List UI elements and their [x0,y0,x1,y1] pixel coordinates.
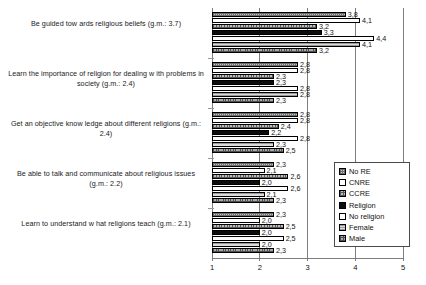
axis-tick-mark [259,258,260,261]
legend-swatch-icon [339,213,346,220]
bar [212,30,322,35]
bar [212,142,274,147]
legend-item[interactable]: Religion [339,200,405,211]
axis-tick-label: 3 [301,263,315,272]
bar [212,124,279,129]
legend-label: Female [349,223,374,232]
bar [212,12,346,17]
legend-swatch-icon [339,235,346,242]
bar-value-label: 2,3 [276,247,286,255]
legend-item[interactable]: Female [339,222,405,233]
bar-value-label: 2,5 [286,223,296,231]
bar [212,162,274,167]
bar [212,24,317,29]
legend-label: CCRE [349,189,370,198]
bar [212,248,274,253]
group-separator [208,108,214,109]
axis-tick-mark [212,258,213,261]
bar [212,242,260,247]
legend-label: CNRE [349,178,370,187]
bar [212,174,288,179]
legend-label: No RE [349,167,371,176]
legend-swatch-icon [339,168,346,175]
bar [212,186,288,191]
legend-swatch-icon [339,190,346,197]
category-label: Learn the importance of religion for dea… [8,69,204,88]
legend-item[interactable]: CCRE [339,188,405,199]
bar [212,218,260,223]
bar-value-label: 2,3 [276,211,286,219]
bar [212,168,265,173]
bar [212,86,298,91]
bar-value-label: 4,4 [376,35,386,43]
bar [212,80,274,85]
bar [212,198,274,203]
legend-swatch-icon [339,202,346,209]
bar [212,236,284,241]
bar [212,180,260,185]
axis-tick-mark [403,258,404,261]
bar [212,230,260,235]
legend-item[interactable]: No religion [339,211,405,222]
category-label: Learn to understand w hat religions teac… [8,219,204,229]
bar [212,148,284,153]
bar-value-label: 2,8 [300,91,310,99]
bar-value-label: 4,1 [362,41,372,49]
bar [212,112,298,117]
group-separator [208,158,214,159]
legend-swatch-icon [339,179,346,186]
axis-tick-mark [307,258,308,261]
axis-tick-label: 4 [348,263,362,272]
legend-swatch-icon [339,224,346,231]
legend-label: Male [349,234,365,243]
bar-value-label: 4,1 [362,17,372,25]
axis-tick-label: 2 [253,263,267,272]
bar [212,224,284,229]
bar-value-label: 2,5 [286,147,296,155]
bar [212,98,274,103]
axis-tick-label: 1 [205,263,219,272]
bar-value-label: 2,6 [290,173,300,181]
bar [212,130,269,135]
bar-value-label: 2,8 [300,135,310,143]
category-label: Be guided tow ards religious beliefs (g.… [8,19,204,29]
group-separator [208,208,214,209]
bar [212,42,360,47]
bar [212,36,374,41]
bar [212,48,317,53]
bar-value-label: 2,3 [276,161,286,169]
axis-tick-label: 5 [396,263,410,272]
bar-value-label: 2,6 [290,185,300,193]
bar-value-label: 2,8 [300,117,310,125]
bar-value-label: 2,4 [281,123,291,131]
bar [212,18,360,23]
legend-item[interactable]: CNRE [339,177,405,188]
legend-item[interactable]: No RE [339,166,405,177]
group-separator [208,58,214,59]
horizontal-bar-chart: Be guided tow ards religious beliefs (g.… [0,0,426,285]
bar-value-label: 2,3 [276,97,286,105]
legend-label: No religion [349,212,384,221]
category-label: Get an objective know ledge about differ… [8,119,204,138]
legend-item[interactable]: Male [339,233,405,244]
chart-legend: No RECNRECCREReligionNo religionFemaleMa… [334,162,410,247]
bar [212,192,265,197]
bar-value-label: 2,8 [300,67,310,75]
bar-value-label: 2,3 [276,197,286,205]
bar [212,62,298,67]
legend-label: Religion [349,201,376,210]
bar [212,74,274,79]
bar-value-label: 3,2 [319,47,329,55]
category-label: Be able to talk and communicate about re… [8,169,204,188]
axis-tick-mark [355,258,356,261]
bar-value-label: 2,5 [286,235,296,243]
